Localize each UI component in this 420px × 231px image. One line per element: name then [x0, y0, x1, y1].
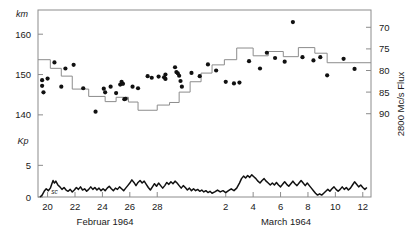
scatter-point	[237, 81, 241, 85]
xtick-label-26: 26	[125, 201, 136, 212]
scatter-point	[341, 57, 345, 61]
scatter-point	[300, 55, 304, 59]
scatter-point	[81, 86, 85, 90]
scatter-point	[163, 77, 167, 81]
scatter-point	[136, 86, 140, 90]
xtick-label-33: 2	[223, 201, 228, 212]
xtick-label-28: 28	[152, 201, 163, 212]
xaxis-label-march: March 1964	[261, 216, 311, 227]
scatter-point	[156, 74, 160, 78]
kp-trace-line	[40, 175, 367, 197]
xtick-label-35: 4	[250, 201, 255, 212]
xtick-label-20: 20	[42, 201, 53, 212]
scatter-point	[318, 55, 322, 59]
scatter-point	[265, 51, 269, 55]
scatter-point	[59, 85, 63, 89]
ytick-label-flux-90: 90	[379, 108, 390, 119]
ytick-label-kp-5: 5	[26, 160, 31, 171]
scatter-point	[41, 90, 45, 94]
scatter-point	[232, 81, 236, 85]
ytick-label-km-150: 150	[15, 69, 31, 80]
ytick-label-flux-80: 80	[379, 65, 390, 76]
scatter-point	[163, 72, 167, 76]
scatter-point	[40, 84, 44, 88]
scatter-point	[352, 67, 356, 71]
axis-label-kp: Kp	[17, 136, 28, 146]
scatter-point	[291, 20, 295, 24]
scatter-point	[72, 63, 76, 67]
scatter-point	[311, 58, 315, 62]
ytick-label-km-160: 160	[15, 29, 31, 40]
annotation-sudden-commencement: sc	[51, 188, 58, 195]
scatter-point	[52, 60, 56, 64]
scatter-point	[146, 74, 150, 78]
ytick-label-flux-70: 70	[379, 22, 390, 33]
scatter-point	[178, 79, 182, 83]
scatter-point	[224, 80, 228, 84]
scatter-point	[124, 97, 128, 101]
scatter-point	[93, 110, 97, 114]
plot-frame	[38, 10, 371, 197]
xtick-label-22: 22	[70, 201, 81, 212]
scatter-point	[177, 74, 181, 78]
scatter-point	[258, 66, 262, 70]
xtick-label-37: 6	[278, 201, 283, 212]
scatter-point	[273, 56, 277, 60]
scatter-point	[130, 85, 134, 89]
xaxis-label-februar: Februar 1964	[77, 216, 134, 227]
xtick-label-43: 12	[357, 201, 368, 212]
chart-svg: 160150140km50Kp70758085902800 Mc/s Flux2…	[0, 0, 420, 231]
scatter-point	[63, 66, 67, 70]
xtick-label-41: 10	[330, 201, 341, 212]
scatter-point	[109, 85, 113, 89]
scatter-point	[283, 60, 287, 64]
scatter-point	[247, 59, 251, 63]
scatter-point	[103, 90, 107, 94]
scatter-point	[150, 76, 154, 80]
scatter-point	[325, 73, 329, 77]
figure-container: 160150140km50Kp70758085902800 Mc/s Flux2…	[0, 0, 420, 231]
scatter-point	[102, 87, 106, 91]
scatter-point	[189, 71, 193, 75]
scatter-point	[180, 85, 184, 89]
scatter-point	[173, 65, 177, 69]
ytick-label-km-140: 140	[15, 109, 31, 120]
ytick-label-kp-0: 0	[26, 192, 31, 203]
scatter-point	[40, 78, 44, 82]
axis-label-km: km	[16, 9, 29, 19]
scatter-point	[45, 76, 49, 80]
xtick-label-39: 8	[305, 201, 310, 212]
ytick-label-flux-75: 75	[379, 43, 390, 54]
scatter-point	[114, 91, 118, 95]
scatter-point	[206, 62, 210, 66]
axis-label-flux: 2800 Mc/s Flux	[395, 72, 406, 137]
ytick-label-flux-85: 85	[379, 87, 390, 98]
scatter-point	[121, 82, 125, 86]
scatter-point	[214, 68, 218, 72]
xtick-label-24: 24	[97, 201, 108, 212]
scatter-point	[198, 74, 202, 78]
